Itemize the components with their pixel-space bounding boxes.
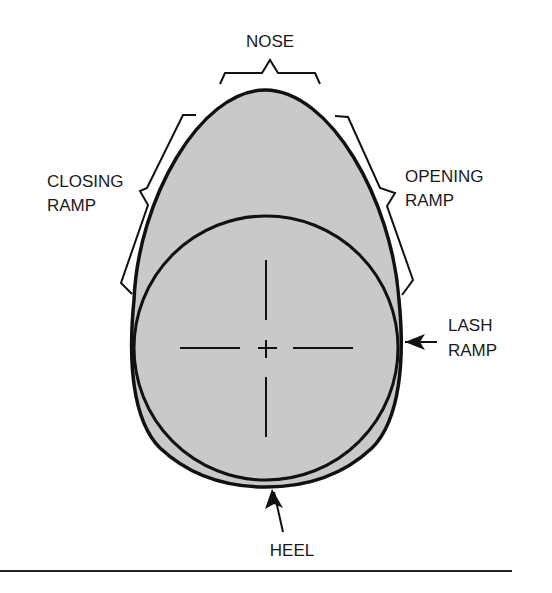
lash-ramp-label-line2: RAMP: [448, 341, 497, 360]
opening-ramp-label-line1: OPENING: [405, 167, 483, 186]
heel-arrow: [265, 489, 283, 532]
nose-bracket: [220, 60, 320, 84]
cam-lobe-diagram: NOSE CLOSING RAMP OPENING RAMP LASH RAMP…: [0, 0, 552, 593]
heel-label: HEEL: [270, 541, 314, 560]
closing-ramp-label-line2: RAMP: [47, 196, 96, 215]
closing-ramp-label-line1: CLOSING: [47, 172, 124, 191]
lash-ramp-label-line1: LASH: [448, 316, 492, 335]
nose-label: NOSE: [246, 32, 294, 51]
opening-ramp-label-line2: RAMP: [405, 191, 454, 210]
lash-ramp-arrow: [405, 334, 437, 350]
